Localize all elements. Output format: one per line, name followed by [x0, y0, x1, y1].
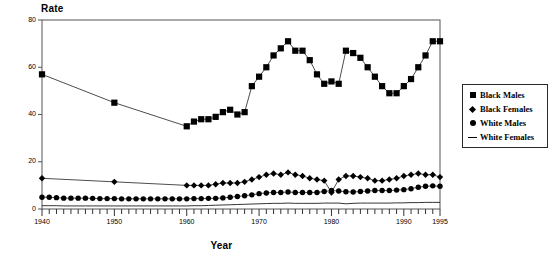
x-tick-label: 1940	[27, 218, 57, 225]
x-tick-label: 1980	[316, 218, 346, 225]
legend-item-black-females[interactable]: Black Females	[467, 102, 544, 116]
legend-item-white-males[interactable]: White Males	[467, 116, 544, 130]
circle-marker-icon	[467, 118, 478, 129]
legend-label: Black Males	[480, 90, 525, 100]
y-tick-label: 80	[8, 16, 36, 23]
diamond-marker-icon	[467, 104, 478, 115]
chart-legend: Black Males Black Females White Males Wh…	[462, 84, 548, 148]
x-tick-label: 1970	[244, 218, 274, 225]
series-black-males	[39, 38, 443, 129]
series-white-females	[42, 202, 440, 206]
legend-item-black-males[interactable]: Black Males	[467, 88, 544, 102]
legend-label: Black Females	[480, 104, 533, 114]
chart-figure: Rate Year Black Males Black Females Whit…	[0, 0, 553, 261]
line-marker-icon	[467, 132, 478, 143]
x-tick-label: 1990	[389, 218, 419, 225]
y-tick-label: 40	[8, 110, 36, 117]
x-axis-title: Year	[0, 240, 443, 251]
legend-label: White Females	[480, 132, 534, 142]
square-marker-icon	[467, 90, 478, 101]
x-tick-label: 1950	[99, 218, 129, 225]
y-tick-label: 60	[8, 63, 36, 70]
x-tick-label: 1995	[425, 218, 455, 225]
y-tick-label: 20	[8, 157, 36, 164]
y-tick-label: 0	[8, 205, 36, 212]
series-white-males	[39, 183, 442, 201]
x-tick-label: 1960	[172, 218, 202, 225]
legend-label: White Males	[480, 118, 526, 128]
legend-item-white-females[interactable]: White Females	[467, 130, 544, 144]
